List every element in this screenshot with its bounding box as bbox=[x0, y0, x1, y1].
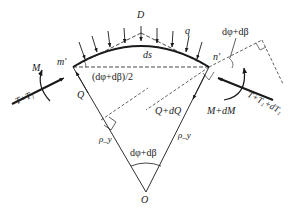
label-q: q bbox=[185, 26, 190, 36]
label-Q-left: Q bbox=[77, 90, 84, 100]
label-M-left: M bbox=[32, 63, 40, 73]
label-rho-right: ρ_y bbox=[178, 131, 191, 140]
label-O: O bbox=[141, 195, 148, 205]
label-angle-top: dφ+dβ bbox=[222, 27, 249, 37]
arc-ds bbox=[73, 46, 209, 67]
label-Q-right: Q+dQ bbox=[155, 106, 181, 116]
curved-beam-diagram: D q ds m′ n′ (dφ+dβ)/2 dφ+dβ M T+T₁ Q Q+… bbox=[0, 0, 292, 210]
label-n-prime: n′ bbox=[213, 52, 220, 62]
label-ds: ds bbox=[143, 50, 152, 60]
label-D: D bbox=[137, 10, 144, 20]
label-m-prime: m′ bbox=[57, 57, 66, 67]
label-rho-left: ρ_y bbox=[99, 135, 112, 144]
label-half-angle: (dφ+dβ)/2 bbox=[92, 72, 133, 82]
angle-arc-O bbox=[131, 163, 161, 166]
label-angle-bottom: dφ+dβ bbox=[130, 148, 157, 158]
label-M-right: M+dM bbox=[207, 106, 235, 116]
